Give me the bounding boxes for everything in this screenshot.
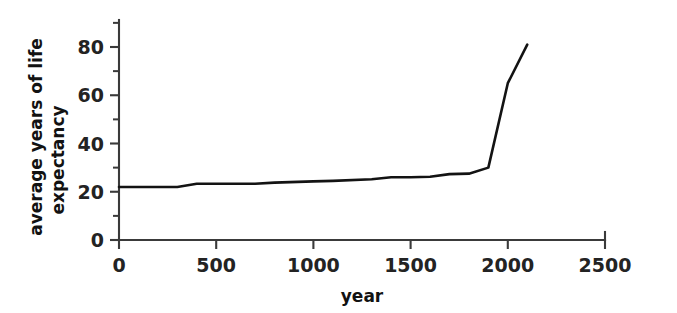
x-tick-label-500: 500 xyxy=(196,254,236,276)
data-series-line xyxy=(119,45,527,187)
x-axis-major-ticks xyxy=(119,240,605,249)
y-axis-title-line2: expectancy xyxy=(48,105,68,214)
x-axis-title: year xyxy=(341,286,384,306)
y-axis-major-ticks xyxy=(110,47,119,240)
y-tick-label-80: 80 xyxy=(78,36,104,58)
chart-figure: 0 20 40 60 80 0 500 1000 1500 2000 2500 … xyxy=(0,0,677,313)
x-tick-label-1500: 1500 xyxy=(384,254,437,276)
y-tick-label-20: 20 xyxy=(78,181,104,203)
y-tick-label-60: 60 xyxy=(78,84,104,106)
x-tick-label-0: 0 xyxy=(112,254,125,276)
y-tick-label-40: 40 xyxy=(78,133,104,155)
y-axis-title-line1: average years of life xyxy=(26,38,46,236)
life-expectancy-line-chart: 0 20 40 60 80 0 500 1000 1500 2000 2500 … xyxy=(0,0,677,313)
x-tick-label-2000: 2000 xyxy=(481,254,534,276)
y-tick-label-0: 0 xyxy=(91,229,104,251)
x-tick-label-1000: 1000 xyxy=(287,254,340,276)
x-tick-label-2500: 2500 xyxy=(579,254,632,276)
